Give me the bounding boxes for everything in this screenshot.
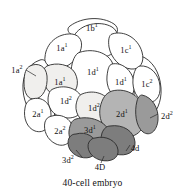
label-1d1-bottom: 1d1 [115, 78, 127, 87]
label-1d2-right: 1d2 [88, 104, 100, 113]
label-1a1-top: 1a1 [56, 44, 67, 53]
label-2d2: 2d2 [161, 112, 173, 121]
label-1a1-bottom: 1a1 [54, 78, 65, 87]
label-1a2: 1a2 [11, 66, 22, 75]
label-4d: 4d [131, 144, 140, 153]
label-2d1: 2d1 [116, 110, 128, 119]
label-3d2: 3d2 [62, 156, 74, 165]
label-1d1-top: 1d1 [87, 68, 99, 77]
embryo-figure: 1b1 1a1 1c1 1d1 1a1 1a2 1d1 1c2 1d2 1d2 … [0, 0, 185, 194]
label-1c2: 1c2 [141, 80, 152, 89]
label-4D: 4D [95, 163, 106, 172]
label-1c1: 1c1 [120, 46, 131, 55]
label-1d2-left: 1d2 [60, 97, 72, 106]
label-2a1: 2a1 [32, 110, 43, 119]
label-1b1: 1b1 [86, 24, 98, 33]
label-2a2: 2a2 [54, 127, 65, 136]
label-3d1: 3d1 [84, 126, 96, 135]
figure-caption: 40-cell embryo [0, 178, 185, 188]
